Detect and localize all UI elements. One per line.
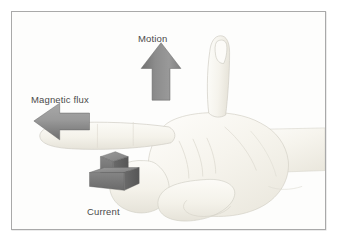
current-label: Current [87,207,120,217]
figure-root: Motion Magnetic flux Current [0,0,338,242]
motion-label: Motion [138,34,167,44]
diagram-artwork [12,12,325,229]
motion-arrow [141,43,181,100]
diagram-panel: Motion Magnetic flux Current [11,11,326,230]
current-arrow [90,152,140,191]
magnetic-flux-label: Magnetic flux [31,95,89,105]
